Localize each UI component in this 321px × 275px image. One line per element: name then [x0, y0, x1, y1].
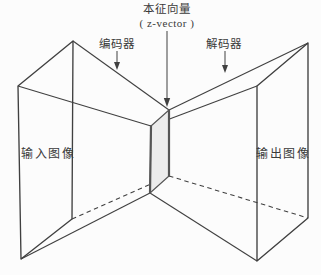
latent-vector-slab: [150, 110, 169, 193]
input-image-label: 输入图像: [21, 146, 75, 161]
decoder-arrow: [222, 51, 228, 73]
decoder-label: 解码器: [206, 37, 242, 50]
latent-vector-label-cn: 本征向量: [143, 2, 191, 15]
down-arrow-icon: [222, 65, 228, 73]
autoencoder-wireframe: 本征向量 ( z-vector ) 编码器 解码器 输入图像 输出图像: [0, 0, 321, 275]
encoder-top-back-edge: [73, 41, 169, 110]
output-image-label: 输出图像: [256, 146, 310, 161]
decoder-bottom-front-edge: [150, 193, 257, 261]
latent-slab-left-edge: [150, 126, 151, 193]
encoder-label: 编码器: [99, 37, 135, 50]
latent-slab-face: [150, 110, 169, 193]
encoder-top-front-edge: [18, 86, 151, 126]
encoder-arrow: [114, 51, 120, 70]
decoder-top-back-edge: [169, 43, 308, 110]
encoder-bottom-front-edge: [21, 193, 150, 259]
decoder-bottom-back-edge-hidden: [169, 176, 308, 218]
down-arrow-icon: [114, 62, 120, 70]
latent-vector-label-en: ( z-vector ): [140, 17, 195, 30]
down-arrow-icon: [164, 98, 170, 107]
autoencoder-diagram: 本征向量 ( z-vector ) 编码器 解码器 输入图像 输出图像: [0, 0, 321, 275]
latent-vector-arrow: [164, 31, 170, 107]
